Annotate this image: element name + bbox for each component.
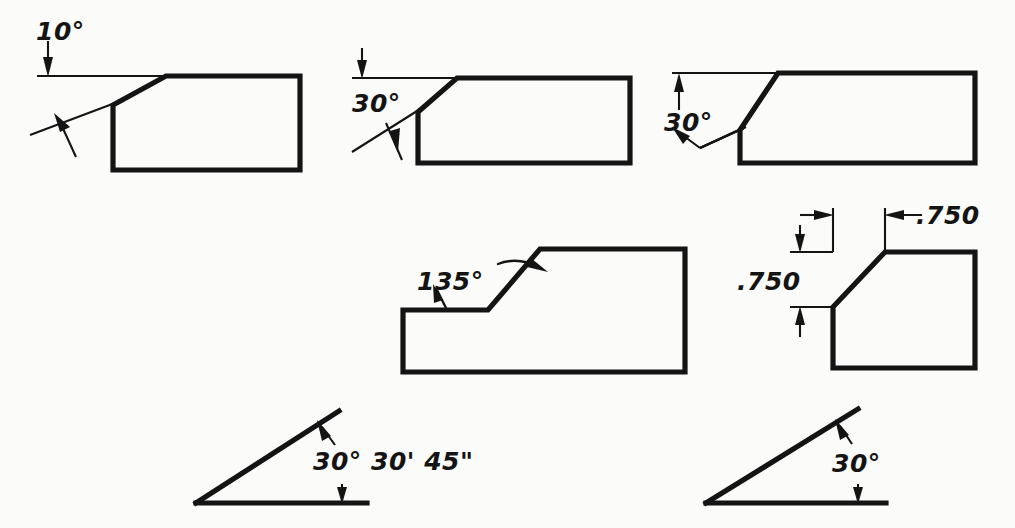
upper-arrowhead [43,57,53,77]
dimension-label-750-vertical: .750 [737,267,801,296]
angle-label-30-degrees: 30° [832,449,881,478]
figure-135-degree-step: 135° [403,249,685,372]
angle-label-30-degrees: 30° [352,89,401,118]
part-outline [740,73,975,163]
technical-drawing-canvas: 10° 30° 3 [0,0,1015,528]
vertical-dim-arrow-bottom [795,306,805,325]
part-outline [113,76,300,170]
upper-arrowhead [357,60,367,79]
vertical-dim-arrow-top [795,234,805,253]
dimension-label-750-horizontal: .750 [916,201,980,230]
lower-arrowhead [390,128,400,152]
lower-arrowhead [54,113,70,132]
figure-30-degree-triangle: 30° [706,409,886,504]
slope-extension-line [30,103,115,135]
horizontal-dim-arrow-right [884,210,904,220]
figure-30-degree-chamfer-vee: 30° [664,73,975,163]
figure-30-30-45-triangle: 30° 30' 45" [196,411,473,504]
figure-750-chamfer: .750 .750 [737,201,980,368]
figure-30-degree-chamfer-left-label: 30° [352,48,630,163]
angle-label-135-degrees: 135° [417,267,484,296]
part-outline [418,78,630,163]
horizontal-dim-arrow-left [814,210,834,220]
upper-arrowhead [674,73,684,92]
part-outline [833,252,975,368]
angle-label-10-degrees: 10° [36,17,85,46]
drawing-sheet: 10° 30° 3 [0,0,1015,528]
angle-label-30-30-45: 30° 30' 45" [313,447,473,476]
figure-10-degree-chamfer: 10° [30,17,300,170]
angle-label-30-degrees: 30° [664,108,713,137]
